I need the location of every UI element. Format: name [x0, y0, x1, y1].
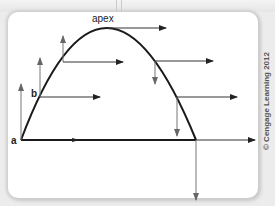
label-apex: apex [92, 13, 114, 24]
baseline-mid-arrow-icon [72, 138, 80, 142]
label-b: b [31, 88, 37, 99]
trajectory-diagram: apex b a [0, 0, 275, 206]
horizontal-velocity-arrows [40, 28, 237, 97]
label-a: a [11, 135, 17, 146]
trajectory-curve [21, 28, 196, 140]
copyright-notice: © Cengage Learning 2012 [262, 52, 271, 150]
baseline [21, 138, 255, 142]
